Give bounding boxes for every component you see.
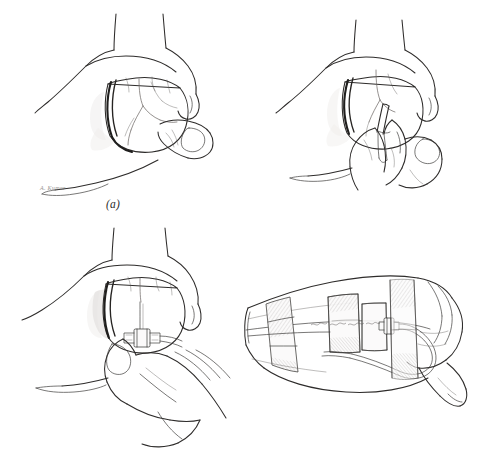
panel-label-a: (a)	[106, 198, 120, 210]
panel-c: (c) A. Kumar	[0, 226, 242, 453]
panel-a-artwork	[0, 0, 242, 226]
artist-signature-a: A. Kumar	[40, 185, 66, 190]
panel-c-artwork	[0, 226, 242, 453]
panel-a: (a) A. Kumar	[0, 0, 242, 226]
panel-d: (d)	[242, 226, 484, 453]
panel-b: (b)	[242, 0, 484, 226]
transparent-dressing-d	[328, 294, 360, 353]
panel-d-artwork	[242, 226, 484, 453]
figure-sheet: (a) A. Kumar	[0, 0, 484, 453]
anchor-tape-mid-d	[390, 279, 418, 379]
panel-b-artwork	[242, 0, 484, 226]
